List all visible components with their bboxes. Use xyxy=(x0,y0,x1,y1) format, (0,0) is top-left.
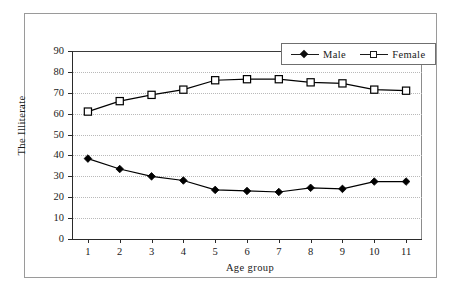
x-axis-title: Age group xyxy=(150,262,350,273)
data-point-female-11 xyxy=(402,87,409,94)
chart-legend[interactable]: Male Female xyxy=(281,43,436,65)
data-point-male-6 xyxy=(243,187,251,195)
legend-item-male[interactable]: Male xyxy=(291,49,346,60)
data-point-male-1 xyxy=(84,155,92,163)
data-point-male-2 xyxy=(116,165,124,173)
data-point-male-10 xyxy=(370,178,378,186)
data-point-male-8 xyxy=(307,184,315,192)
male-marker-icon xyxy=(291,49,319,59)
data-point-female-8 xyxy=(307,79,314,86)
data-point-female-2 xyxy=(116,98,123,105)
data-point-male-3 xyxy=(148,173,156,181)
data-point-male-7 xyxy=(275,188,283,196)
legend-label-male: Male xyxy=(323,49,346,60)
data-point-male-9 xyxy=(339,185,347,193)
data-point-female-9 xyxy=(339,80,346,87)
y-axis-title: The Illiterate xyxy=(16,81,27,171)
data-point-female-1 xyxy=(84,108,91,115)
data-point-female-4 xyxy=(180,86,187,93)
data-point-female-6 xyxy=(243,76,250,83)
series-line-female xyxy=(88,79,406,111)
data-point-male-5 xyxy=(211,186,219,194)
data-point-male-4 xyxy=(180,177,188,185)
data-point-male-11 xyxy=(402,178,410,186)
data-point-female-3 xyxy=(148,91,155,98)
data-point-female-10 xyxy=(371,86,378,93)
legend-label-female: Female xyxy=(392,49,425,60)
data-point-female-7 xyxy=(275,76,282,83)
data-point-female-5 xyxy=(212,77,219,84)
chart-figure: 0102030405060708090 1234567891011 Male F… xyxy=(0,0,461,294)
legend-item-female[interactable]: Female xyxy=(360,49,425,60)
female-marker-icon xyxy=(360,49,388,59)
